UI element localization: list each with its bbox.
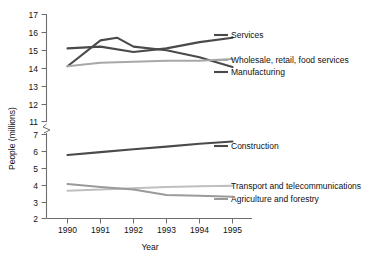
x-tick-label-1995: 1995 — [223, 225, 242, 235]
series-label-wholesale: Wholesale, retail, food services — [231, 55, 349, 65]
y-tick-label-16: 16 — [29, 28, 39, 38]
y-tick-labels: 17 16 15 14 13 12 11 7 6 5 4 3 2 — [29, 10, 39, 224]
y-axis-title: People (millions) — [7, 107, 17, 170]
axis-break-icon — [43, 124, 50, 133]
y-tick-label-17: 17 — [29, 10, 39, 20]
series-labels: Services Wholesale, retail, food service… — [231, 30, 361, 204]
y-tick-label-7: 7 — [33, 130, 38, 140]
series-line-wholesale-retail-food-services — [68, 59, 233, 66]
x-tick-label-1991: 1991 — [91, 225, 110, 235]
y-tick-label-11: 11 — [29, 117, 38, 127]
y-tick-label-13: 13 — [29, 82, 39, 92]
series-label-services: Services — [231, 30, 264, 40]
x-tick-label-1994: 1994 — [190, 225, 209, 235]
y-tick-label-3: 3 — [33, 198, 38, 208]
y-tick-label-2: 2 — [33, 214, 38, 224]
x-axis-title: Year — [141, 242, 158, 252]
series-line-services — [68, 38, 233, 52]
x-axis — [47, 219, 253, 224]
x-tick-labels: 1990 1991 1992 1993 1994 1995 — [58, 225, 242, 235]
y-tick-label-12: 12 — [29, 100, 39, 110]
series-line-construction — [68, 142, 233, 155]
y-tick-label-14: 14 — [29, 64, 39, 74]
series-label-transport: Transport and telecommunications — [231, 181, 361, 191]
line-chart: 17 16 15 14 13 12 11 7 6 5 4 3 2 People … — [0, 0, 388, 262]
y-tick-label-4: 4 — [33, 181, 38, 191]
series-label-agriculture: Agriculture and forestry — [231, 194, 320, 204]
series-label-construction: Construction — [231, 141, 279, 151]
series-leader-lines — [214, 35, 228, 199]
series-label-manufacturing: Manufacturing — [231, 67, 285, 77]
chart-svg: 17 16 15 14 13 12 11 7 6 5 4 3 2 People … — [0, 0, 388, 262]
x-tick-label-1990: 1990 — [58, 225, 77, 235]
y-tick-label-6: 6 — [33, 147, 38, 157]
plot-area — [68, 38, 233, 197]
y-axis-upper — [42, 14, 47, 122]
y-tick-label-15: 15 — [29, 46, 39, 56]
y-axis-lower — [42, 133, 47, 219]
x-tick-label-1993: 1993 — [157, 225, 176, 235]
x-tick-label-1992: 1992 — [124, 225, 143, 235]
y-tick-label-5: 5 — [33, 164, 38, 174]
